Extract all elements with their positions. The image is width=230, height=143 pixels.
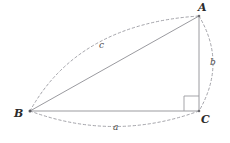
right-angle-marker: [184, 96, 199, 111]
vertex-label-b: B: [14, 108, 23, 119]
side-line-hypotenuse-ba: [30, 16, 199, 111]
vertex-dot-C: [198, 110, 201, 113]
geometry-figure: A B C c b a: [0, 0, 230, 143]
vertex-dot-A: [198, 15, 201, 18]
vertex-label-a: A: [198, 2, 207, 13]
vertex-dot-B: [29, 110, 32, 113]
side-label-a: a: [113, 123, 118, 132]
side-label-b: b: [210, 58, 216, 67]
side-label-c: c: [99, 41, 104, 50]
vertex-label-c: C: [201, 114, 210, 125]
